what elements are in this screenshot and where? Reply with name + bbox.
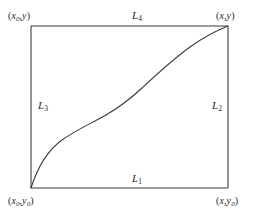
- edge-label-left: L3: [38, 100, 48, 113]
- edge-subscript: 4: [138, 14, 142, 23]
- figure-container: (x0,y) (x,y) (x0,y0) (x,y0) L4 L2 L1 L3: [0, 0, 258, 224]
- edge-label-top: L4: [132, 10, 142, 23]
- edge-subscript: 2: [218, 104, 222, 113]
- close-paren: ): [235, 195, 238, 206]
- corner-label-bottom-left: (x0,y0): [8, 196, 34, 208]
- edge-label-right: L2: [212, 100, 222, 113]
- edge-label-bottom: L1: [132, 173, 142, 186]
- close-paren: ): [231, 10, 234, 21]
- corner-label-top-left: (x0,y): [8, 11, 30, 23]
- close-paren: ): [30, 195, 33, 206]
- corner-label-top-right: (x,y): [216, 11, 235, 21]
- sigmoid-curve: [31, 26, 228, 188]
- close-paren: ): [27, 10, 30, 21]
- edge-subscript: 1: [138, 177, 142, 186]
- edge-subscript: 3: [44, 104, 48, 113]
- corner-label-bottom-right: (x,y0): [216, 196, 238, 208]
